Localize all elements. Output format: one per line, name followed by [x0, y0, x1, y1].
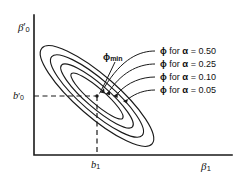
- legend-alpha-symbol-2: α: [182, 71, 188, 82]
- legend-equals-0: =: [191, 46, 196, 56]
- legend-equals-1: =: [191, 59, 196, 69]
- y-tick-label-b0: b′0: [13, 90, 24, 102]
- legend-item-alpha-050: ϕ for α = 0.50: [160, 46, 216, 56]
- legend-for-text-0: for: [169, 46, 180, 56]
- legend-item-alpha-025: ϕ for α = 0.25: [160, 59, 216, 69]
- legend-for-text-1: for: [169, 59, 180, 69]
- legend-for-text-2: for: [169, 72, 180, 82]
- legend-equals-2: =: [191, 72, 196, 82]
- contour-plot-figure: β′0 β1 b′0 b1 ϕmin ϕ for α = 0.50 ϕ for …: [0, 0, 245, 180]
- legend-value-1: 0.25: [198, 59, 216, 69]
- legend-item-alpha-010: ϕ for α = 0.10: [160, 72, 216, 82]
- phi-min-subscript: min: [110, 55, 122, 62]
- y-axis-label: β′0: [18, 22, 30, 34]
- x-tick-label-subscript: 1: [96, 163, 100, 170]
- y-tick-label-subscript: 0: [20, 94, 24, 101]
- leader-line-alpha-005: [128, 90, 155, 99]
- legend-for-text-3: for: [169, 85, 180, 95]
- legend-alpha-symbol-1: α: [182, 58, 188, 69]
- phi-min-label: ϕmin: [103, 52, 123, 62]
- legend-value-0: 0.50: [198, 46, 216, 56]
- legend-phi-symbol-0: ϕ: [160, 46, 167, 56]
- legend-equals-3: =: [191, 85, 196, 95]
- legend-value-2: 0.10: [198, 72, 216, 82]
- x-axis-label: β1: [201, 161, 211, 173]
- legend-phi-symbol-2: ϕ: [160, 72, 167, 82]
- x-tick-label-b1: b1: [91, 159, 100, 171]
- legend-item-alpha-005: ϕ for α = 0.05: [160, 85, 216, 95]
- legend-phi-symbol-3: ϕ: [160, 85, 167, 95]
- legend-value-3: 0.05: [198, 85, 216, 95]
- phi-min-point-marker: [95, 94, 98, 97]
- x-axis-label-subscript: 1: [206, 164, 210, 173]
- legend-alpha-symbol-0: α: [182, 45, 188, 56]
- legend-alpha-symbol-3: α: [182, 84, 188, 95]
- y-axis-label-subscript: 0: [25, 25, 29, 34]
- legend-phi-symbol-1: ϕ: [160, 59, 167, 69]
